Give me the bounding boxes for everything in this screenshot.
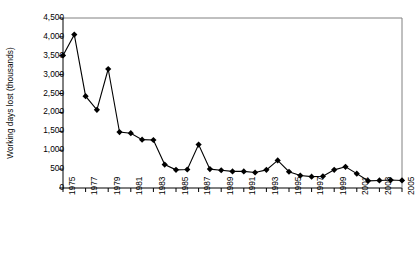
- x-tick-label: 1999: [338, 177, 348, 195]
- data-point-marker: [229, 168, 235, 174]
- data-point-marker: [218, 167, 224, 173]
- data-point-marker: [139, 137, 145, 143]
- y-tick-label: 3,500: [20, 51, 64, 59]
- x-tick-label: 1979: [112, 177, 122, 195]
- data-line-series-1: [63, 35, 402, 181]
- data-point-marker: [342, 164, 348, 170]
- x-tick-label: 1993: [270, 177, 280, 195]
- data-point-marker: [309, 174, 315, 180]
- data-point-marker: [399, 177, 405, 183]
- x-tick-label: 2005: [406, 177, 416, 195]
- x-tick-label: 2001: [360, 177, 370, 195]
- x-tick-label: 1987: [202, 177, 212, 195]
- data-point-marker: [150, 137, 156, 143]
- y-tick-label: 4,500: [20, 13, 64, 21]
- data-point-marker: [252, 169, 258, 175]
- data-point-marker: [105, 66, 111, 72]
- data-markers: [60, 32, 405, 184]
- chart-figure: Working days lost (thousands) 05001,0001…: [0, 0, 416, 263]
- data-point-marker: [241, 168, 247, 174]
- data-point-marker: [71, 32, 77, 38]
- data-point-marker: [196, 141, 202, 147]
- y-tick-label: 0: [20, 183, 64, 191]
- x-tick-label: 1995: [293, 177, 303, 195]
- x-tick-label: 2003: [383, 177, 393, 195]
- data-point-marker: [116, 129, 122, 135]
- y-tick-label: 500: [20, 164, 64, 172]
- x-tick-label: 1977: [89, 177, 99, 195]
- y-tick-label: 4,000: [20, 32, 64, 40]
- data-point-marker: [162, 161, 168, 167]
- x-tick-label: 1981: [134, 177, 144, 195]
- data-point-marker: [354, 171, 360, 177]
- data-point-marker: [173, 167, 179, 173]
- y-tick-label: 1,000: [20, 145, 64, 153]
- x-tick-label: 1989: [225, 177, 235, 195]
- y-tick-label: 1,500: [20, 126, 64, 134]
- x-tick-label: 1975: [67, 177, 77, 195]
- data-point-marker: [376, 177, 382, 183]
- data-point-marker: [207, 166, 213, 172]
- x-tick-label: 1983: [157, 177, 167, 195]
- plot-area: 05001,0001,5002,0002,5003,0003,5004,0004…: [0, 0, 416, 263]
- x-tick-label: 1997: [315, 177, 325, 195]
- x-tick-label: 1985: [180, 177, 190, 195]
- data-point-marker: [128, 130, 134, 136]
- y-tick-label: 3,000: [20, 70, 64, 78]
- data-point-marker: [184, 166, 190, 172]
- x-tick-label: 1991: [247, 177, 257, 195]
- y-tick-label: 2,500: [20, 89, 64, 97]
- data-point-marker: [331, 167, 337, 173]
- y-tick-label: 2,000: [20, 107, 64, 115]
